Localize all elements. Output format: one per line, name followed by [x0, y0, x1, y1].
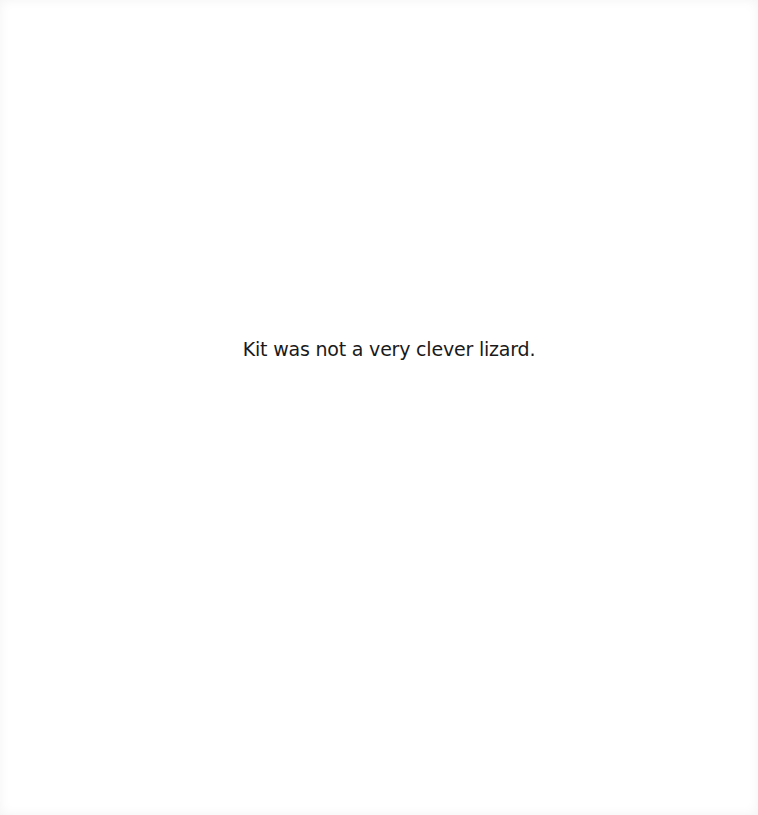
story-sentence: Kit was not a very clever lizard. [0, 334, 758, 364]
document-page: Kit was not a very clever lizard. [0, 0, 758, 815]
